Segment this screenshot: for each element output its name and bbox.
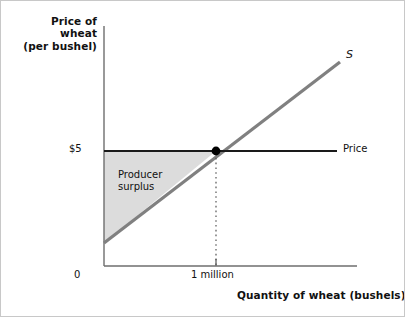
supply-curve-diagram: Price of wheat (per bushel) Quantity of … (0, 0, 405, 317)
x-axis-tick-label-1-million: 1 million (191, 269, 234, 281)
x-axis-title: Quantity of wheat (bushels) (237, 289, 405, 301)
x-axis-origin-label: 0 (74, 269, 80, 281)
y-axis-tick-label-5: $5 (69, 143, 82, 155)
price-line-label: Price (343, 143, 367, 155)
supply-curve-label: S (346, 49, 353, 62)
producer-surplus-label: Producer surplus (118, 169, 162, 193)
equilibrium-point-marker (212, 147, 221, 156)
y-axis-title: Price of wheat (per bushel) (23, 15, 97, 52)
